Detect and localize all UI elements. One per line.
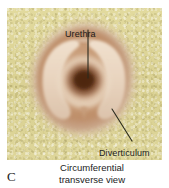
caption-line-1: Circumferential xyxy=(34,162,150,174)
caption-line-2: transverse view xyxy=(34,174,150,186)
figure-panel: Urethra Diverticulum C Circumferential t… xyxy=(0,0,169,188)
panel-letter: C xyxy=(7,170,16,183)
urethral-lumen xyxy=(65,63,103,99)
label-diverticulum: Diverticulum xyxy=(99,148,150,158)
figure-caption: Circumferential transverse view xyxy=(34,162,150,186)
illustration-plate: Urethra Diverticulum xyxy=(7,8,162,160)
label-urethra: Urethra xyxy=(65,29,96,39)
